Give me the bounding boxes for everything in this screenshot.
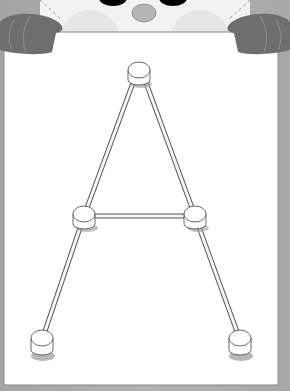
nose: [132, 4, 156, 22]
peg-right-foot: [229, 330, 253, 361]
peg-left-foot: [31, 330, 55, 361]
peg-apex: [128, 62, 152, 88]
worksheet-scene: [0, 0, 290, 391]
